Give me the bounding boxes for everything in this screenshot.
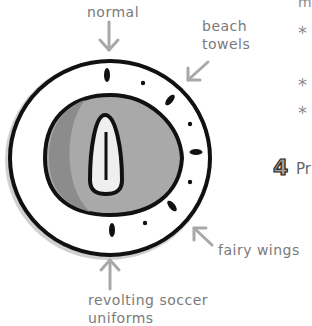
washing-dial-diagram: 4 <box>0 0 312 326</box>
label-normal: normal <box>87 4 139 20</box>
bullet-3: * <box>298 102 307 123</box>
label-uniforms: uniforms <box>88 310 154 326</box>
bullet-2: * <box>298 74 307 95</box>
arrow-normal <box>100 22 118 50</box>
label-fairy-wings: fairy wings <box>218 242 300 258</box>
label-towels: towels <box>202 36 250 52</box>
step-number-4: 4 <box>273 155 288 180</box>
dot-4 <box>143 221 147 225</box>
dot-2 <box>188 122 192 126</box>
arrow-fairy-wings <box>194 228 212 245</box>
step-text-fragment: Pr <box>296 160 311 178</box>
side-fragment-top: m <box>298 0 312 10</box>
bullet-1: * <box>298 22 307 43</box>
arrow-revolting-uniforms <box>101 260 119 289</box>
tick-top <box>104 68 110 82</box>
dot-3 <box>188 180 192 184</box>
arrow-beach-towels <box>188 62 208 80</box>
tick-3 <box>190 149 203 155</box>
tick-bottom <box>109 223 115 237</box>
label-revolting: revolting soccer <box>88 292 208 308</box>
dot-1 <box>141 81 145 85</box>
label-beach: beach <box>202 18 247 34</box>
